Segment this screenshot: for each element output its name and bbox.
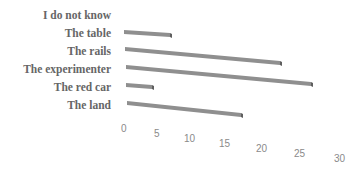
x-tick-5: 5: [154, 128, 160, 139]
bar-the-experimenter: [126, 65, 313, 87]
bar-the-red-car: [126, 83, 154, 90]
x-tick-10: 10: [184, 133, 195, 144]
bar-the-rails: [125, 47, 282, 66]
bar-the-table: [124, 30, 172, 38]
x-tick-30: 30: [334, 153, 345, 164]
bars-plot-area: [0, 0, 363, 174]
x-tick-25: 25: [294, 148, 305, 159]
bar-the-land: [127, 101, 243, 118]
x-tick-15: 15: [219, 138, 230, 149]
x-tick-20: 20: [256, 143, 267, 154]
x-tick-0: 0: [121, 123, 127, 134]
